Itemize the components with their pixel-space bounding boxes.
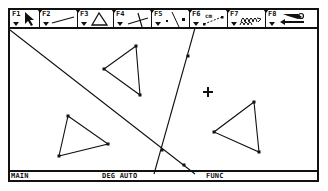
crosshair-cursor-icon	[203, 87, 213, 97]
vertex-point[interactable]	[67, 115, 70, 118]
triangle-top[interactable]	[103, 45, 142, 97]
vertex-point[interactable]	[135, 45, 138, 48]
line-point[interactable]	[187, 55, 190, 58]
geometry-canvas[interactable]	[10, 10, 321, 184]
vertex-point[interactable]	[103, 68, 106, 71]
status-bar: MAIN DEG AUTO FUNC	[10, 170, 317, 180]
vertex-point[interactable]	[253, 101, 256, 104]
vertex-point[interactable]	[213, 131, 216, 134]
intersection-point[interactable]	[161, 149, 164, 152]
status-angle-mode: DEG AUTO	[102, 172, 137, 181]
calculator-screen: F1 F2 F3 F4	[8, 8, 319, 182]
vertex-point[interactable]	[107, 143, 110, 146]
status-mode: MAIN	[11, 172, 29, 181]
vertex-point[interactable]	[258, 151, 261, 154]
line-point[interactable]	[183, 164, 186, 167]
triangle-left[interactable]	[58, 115, 110, 158]
status-graph-mode: FUNC	[206, 172, 224, 181]
triangle-right[interactable]	[213, 101, 261, 154]
vertex-point[interactable]	[58, 155, 61, 158]
vertex-point[interactable]	[139, 94, 142, 97]
steep-line[interactable]	[154, 28, 195, 174]
diagonal-line[interactable]	[10, 30, 195, 174]
